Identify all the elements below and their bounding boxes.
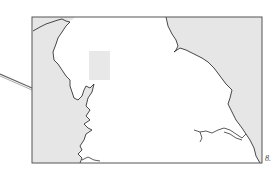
- map: [0, 0, 273, 172]
- figure-label: 8.: [265, 154, 271, 163]
- inset-box: [89, 51, 110, 80]
- pointer-line: [0, 74, 32, 90]
